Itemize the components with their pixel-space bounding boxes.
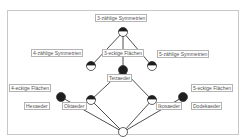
- label-oktaeder: Oktaeder: [62, 102, 87, 110]
- lattice-node-sym4: [87, 62, 96, 71]
- label-triangular-faces: 3-eckige Flächen: [102, 49, 144, 57]
- lattice-node-okta: [87, 96, 96, 105]
- label-ikosaeder: Ikosaeder: [156, 102, 182, 110]
- lattice-edge: [123, 100, 152, 132]
- lattice-node-sym5: [148, 62, 157, 71]
- label-hexaeder: Hexaeder: [24, 102, 50, 110]
- label-4-fold-symmetries: 4-zählige Symmetrien: [31, 49, 83, 57]
- lattice-edges: [61, 32, 183, 132]
- lattice-node-dodeka: [179, 93, 188, 102]
- label-pentagonal-faces: 5-eckige Flächen: [191, 84, 233, 92]
- lattice-node-top: [119, 28, 128, 37]
- lattice-node-bottom: [119, 128, 128, 137]
- diagram-canvas: 3-zählige Symmetrien 4-zählige Symmetrie…: [0, 0, 247, 140]
- lattice-node-hexa: [57, 93, 66, 102]
- label-dodekaeder: Dodekaeder: [191, 102, 222, 110]
- label-3-fold-symmetries: 3-zählige Symmetrien: [95, 14, 147, 22]
- lattice-nodes: [57, 28, 188, 137]
- lattice-edge: [91, 100, 123, 132]
- label-5-fold-symmetries: 5-zählige Symmetrien: [157, 50, 209, 58]
- label-square-faces: 4-eckige Flächen: [9, 84, 51, 92]
- label-tetraeder: Tetraeder: [107, 74, 132, 82]
